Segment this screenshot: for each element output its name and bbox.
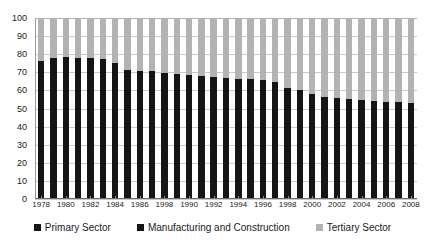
bar-segment: [112, 18, 118, 63]
bar-segment: [383, 18, 389, 102]
bar-segment: [100, 59, 106, 138]
bar-segment: [309, 94, 315, 158]
x-tick-mark: [362, 196, 363, 199]
bar-segment: [124, 18, 130, 70]
stacked-bar-chart: 0102030405060708090100 19781980198219841…: [0, 0, 425, 244]
bar-segment: [38, 18, 44, 61]
bar-segment: [247, 154, 253, 199]
bar-group: [346, 18, 352, 199]
x-tick-label: 2000: [303, 200, 321, 210]
x-tick-mark: [386, 196, 387, 199]
y-tick-label: 50: [17, 104, 27, 113]
bar-segment: [260, 155, 266, 199]
bar-segment: [284, 18, 290, 88]
bar-segment: [309, 158, 315, 199]
bar-segment: [174, 74, 180, 150]
bar-segment: [124, 147, 130, 199]
bar-segment: [210, 152, 216, 199]
x-tick-label: 1980: [57, 200, 75, 210]
bar-group: [87, 18, 93, 199]
x-tick-label: 1986: [131, 200, 149, 210]
bar-group: [63, 18, 69, 199]
bar-segment: [358, 165, 364, 199]
bar-segment: [87, 58, 93, 139]
x-tick-label: 2002: [328, 200, 346, 210]
x-tick-label: 1998: [279, 200, 297, 210]
bar-segment: [247, 79, 253, 154]
bar-segment: [198, 76, 204, 151]
y-tick-label: 70: [17, 68, 27, 77]
x-tick-mark: [214, 196, 215, 199]
x-tick-label: 2006: [377, 200, 395, 210]
legend-item: Manufacturing and Construction: [137, 222, 290, 233]
bar-segment: [223, 18, 229, 78]
x-tick-mark: [263, 196, 264, 199]
x-tick-label: 1990: [180, 200, 198, 210]
bar-segment: [346, 99, 352, 162]
x-tick-mark: [140, 196, 141, 199]
x-tick-label: 1994: [229, 200, 247, 210]
bar-segment: [210, 18, 216, 77]
bar-group: [100, 18, 106, 199]
x-tick-label: 1978: [32, 200, 50, 210]
bar-segment: [174, 150, 180, 199]
bar-segment: [63, 146, 69, 199]
bar-segment: [137, 148, 143, 199]
bar-segment: [100, 18, 106, 59]
bar-group: [198, 18, 204, 199]
bar-group: [334, 18, 340, 199]
bar-segment: [63, 57, 69, 146]
bar-group: [260, 18, 266, 199]
bar-segment: [112, 137, 118, 199]
bar-segment: [198, 151, 204, 199]
bar-segment: [395, 102, 401, 168]
bar-segment: [38, 61, 44, 147]
bar-group: [186, 18, 192, 199]
x-tick-label: 1992: [205, 200, 223, 210]
x-tick-mark: [411, 196, 412, 199]
bar-segment: [161, 150, 167, 199]
bar-group: [75, 18, 81, 199]
bar-segment: [284, 88, 290, 157]
x-tick-mark: [238, 196, 239, 199]
bar-segment: [260, 80, 266, 155]
legend-label: Manufacturing and Construction: [148, 222, 290, 233]
bar-group: [247, 18, 253, 199]
bars-layer: [35, 18, 417, 199]
x-tick-mark: [164, 196, 165, 199]
bar-group: [309, 18, 315, 199]
bar-segment: [346, 163, 352, 199]
bar-segment: [100, 137, 106, 199]
bar-segment: [247, 18, 253, 79]
y-tick-label: 80: [17, 50, 27, 59]
x-tick-label: 2008: [402, 200, 420, 210]
bar-group: [124, 18, 130, 199]
bar-segment: [149, 18, 155, 70]
bar-segment: [186, 18, 192, 75]
bar-segment: [50, 147, 56, 199]
x-tick-mark: [189, 196, 190, 199]
bar-segment: [272, 18, 278, 82]
x-tick-mark: [337, 196, 338, 199]
legend-swatch-icon: [137, 224, 144, 231]
chart-legend: Primary SectorManufacturing and Construc…: [0, 219, 425, 235]
y-tick-label: 30: [17, 140, 27, 149]
bar-segment: [309, 18, 315, 94]
bar-segment: [383, 167, 389, 199]
bar-group: [395, 18, 401, 199]
y-tick-label: 60: [17, 86, 27, 95]
legend-label: Tertiary Sector: [327, 222, 391, 233]
bar-group: [174, 18, 180, 199]
bar-group: [371, 18, 377, 199]
bar-segment: [395, 18, 401, 102]
bar-segment: [87, 139, 93, 199]
bar-segment: [334, 18, 340, 98]
x-axis-line: [35, 198, 417, 199]
bar-segment: [371, 101, 377, 166]
y-tick-label: 40: [17, 122, 27, 131]
bar-group: [297, 18, 303, 199]
y-axis: 0102030405060708090100: [0, 18, 31, 199]
bar-segment: [321, 159, 327, 199]
y-tick-label: 10: [17, 176, 27, 185]
bar-segment: [235, 79, 241, 153]
